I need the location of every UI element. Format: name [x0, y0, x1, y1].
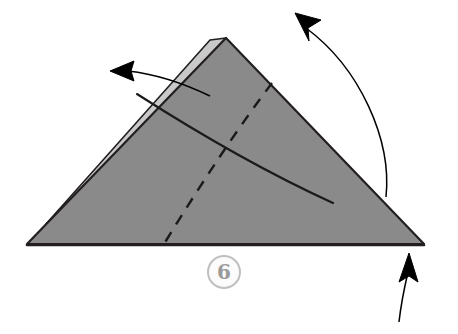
folded-paper-triangle	[27, 38, 424, 244]
fold-arrow-bottom-right	[399, 253, 418, 322]
fold-arrow-left-head	[110, 61, 134, 81]
origami-diagram: 6	[0, 0, 458, 334]
step-number-label: 6	[217, 262, 231, 282]
fold-arrow-bottom-right-head	[399, 253, 418, 282]
step-number-badge: 6	[207, 255, 241, 289]
